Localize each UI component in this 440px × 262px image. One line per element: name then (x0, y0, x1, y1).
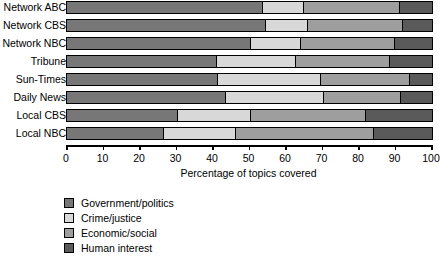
legend-item[interactable]: Economic/social (64, 226, 174, 240)
x-tick-label: 50 (243, 152, 255, 164)
legend-item[interactable]: Crime/justice (64, 211, 174, 225)
bar-segment-crime-justice (217, 56, 296, 67)
x-tick (358, 145, 360, 150)
legend-label: Government/politics (81, 197, 174, 209)
x-tick (285, 145, 287, 150)
bar-segment-government-politics (67, 92, 226, 103)
legend-label: Economic/social (81, 227, 157, 239)
x-tick-label: 0 (63, 152, 69, 164)
bar-segment-government-politics (67, 56, 217, 67)
bar-segment-government-politics (67, 110, 178, 121)
bar-row: Network CBS (0, 18, 437, 36)
x-tick-label: 100 (422, 152, 440, 164)
x-tick (66, 145, 68, 150)
legend-item[interactable]: Government/politics (64, 196, 174, 210)
bar-segment-government-politics (67, 128, 164, 139)
bar-segment-crime-justice (218, 74, 321, 85)
bar-segment-economic-social (296, 56, 390, 67)
bar-segment-crime-justice (178, 110, 251, 121)
x-tick-label: 80 (352, 152, 364, 164)
bar-segment-government-politics (67, 2, 263, 13)
category-label-tribune: Tribune (31, 54, 66, 69)
stacked-bar (66, 37, 433, 50)
bar-segment-human-interest (395, 38, 432, 49)
bar-segment-economic-social (304, 2, 400, 13)
category-label-network-nbc: Network NBC (2, 36, 66, 51)
bar-segment-economic-social (301, 38, 396, 49)
plot-area: Network ABCNetwork CBSNetwork NBCTribune… (0, 0, 437, 145)
stacked-bar (66, 91, 433, 104)
legend-label: Crime/justice (81, 212, 142, 224)
category-label-network-cbs: Network CBS (3, 18, 66, 33)
legend-item[interactable]: Human interest (64, 241, 174, 255)
bar-row: Local CBS (0, 108, 437, 126)
bar-segment-economic-social (321, 74, 410, 85)
bar-row: Local NBC (0, 126, 437, 144)
x-tick-label: 20 (133, 152, 145, 164)
bar-segment-human-interest (366, 110, 432, 121)
bar-row: Network ABC (0, 0, 437, 18)
stacked-bar (66, 109, 433, 122)
stacked-bar (66, 55, 433, 68)
bar-row: Tribune (0, 54, 437, 72)
x-tick (249, 145, 251, 150)
bar-segment-human-interest (390, 56, 432, 67)
stacked-bar (66, 1, 433, 14)
bar-segment-crime-justice (164, 128, 236, 139)
bar-segment-economic-social (251, 110, 366, 121)
bar-segment-government-politics (67, 20, 266, 31)
x-tick (431, 145, 433, 150)
x-tick-label: 70 (316, 152, 328, 164)
bar-segment-government-politics (67, 74, 218, 85)
bar-segment-human-interest (400, 2, 432, 13)
x-tick-label: 60 (279, 152, 291, 164)
category-label-daily-news: Daily News (13, 90, 66, 105)
category-label-local-cbs: Local CBS (16, 108, 66, 123)
stacked-bar (66, 127, 433, 140)
x-tick (322, 145, 324, 150)
x-tick-label: 30 (170, 152, 182, 164)
bar-segment-government-politics (67, 38, 251, 49)
bar-segment-economic-social (324, 92, 401, 103)
legend-label: Human interest (81, 242, 152, 254)
bar-row: Daily News (0, 90, 437, 108)
bar-row: Sun-Times (0, 72, 437, 90)
x-axis-title: Percentage of topics covered (66, 167, 431, 179)
x-tick (176, 145, 178, 150)
bar-segment-economic-social (308, 20, 403, 31)
legend-swatch-icon (64, 243, 74, 253)
legend-swatch-icon (64, 228, 74, 238)
x-tick-label: 40 (206, 152, 218, 164)
bar-segment-human-interest (410, 74, 432, 85)
bar-segment-human-interest (401, 92, 432, 103)
bar-segment-crime-justice (266, 20, 308, 31)
bar-segment-crime-justice (263, 2, 304, 13)
bar-segment-human-interest (374, 128, 432, 139)
x-tick-label: 10 (97, 152, 109, 164)
bar-segment-crime-justice (226, 92, 325, 103)
category-label-sun-times: Sun-Times (16, 72, 66, 87)
stacked-bar (66, 19, 433, 32)
x-tick (103, 145, 105, 150)
chart-legend: Government/politicsCrime/justiceEconomic… (64, 196, 174, 256)
category-label-network-abc: Network ABC (4, 0, 66, 15)
x-tick (395, 145, 397, 150)
bar-row: Network NBC (0, 36, 437, 54)
legend-swatch-icon (64, 213, 74, 223)
legend-swatch-icon (64, 198, 74, 208)
x-tick-label: 90 (389, 152, 401, 164)
bar-segment-human-interest (403, 20, 432, 31)
category-label-local-nbc: Local NBC (16, 126, 66, 141)
stacked-bar (66, 73, 433, 86)
bar-segment-crime-justice (251, 38, 300, 49)
x-tick (139, 145, 141, 150)
x-tick (212, 145, 214, 150)
bar-segment-economic-social (236, 128, 374, 139)
